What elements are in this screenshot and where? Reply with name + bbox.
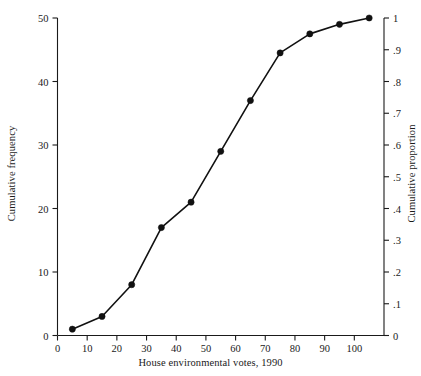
data-point-markers	[69, 15, 372, 332]
right-axis-tick-labels: 0.1.2.3.4.5.6.7.8.91	[393, 13, 402, 342]
left-tick-label: 20	[38, 204, 49, 215]
cumulative-frequency-chart: 01020304050 0.1.2.3.4.5.6.7.8.91 0102030…	[0, 0, 421, 376]
plot-area: 01020304050 0.1.2.3.4.5.6.7.8.91 0102030…	[0, 0, 421, 376]
right-axis-ticks	[384, 18, 389, 336]
right-tick-label: .5	[393, 172, 401, 183]
data-point	[366, 15, 372, 21]
right-tick-label: .4	[393, 204, 402, 215]
data-point	[277, 50, 283, 56]
x-axis-title: House environmental votes, 1990	[0, 357, 421, 368]
x-tick-label: 20	[112, 343, 123, 354]
right-tick-label: 0	[393, 331, 398, 342]
right-tick-label: .1	[393, 299, 401, 310]
x-tick-label: 40	[171, 343, 182, 354]
data-point	[129, 282, 135, 288]
left-tick-label: 40	[38, 77, 49, 88]
data-point	[158, 224, 164, 230]
data-point	[218, 148, 224, 154]
y-axis-title-right: Cumulative proportion	[406, 59, 417, 289]
right-tick-label: .2	[393, 267, 401, 278]
x-tick-label: 70	[260, 343, 271, 354]
y-axis-title-left: Cumulative frequency	[6, 59, 17, 289]
right-tick-label: .7	[393, 108, 401, 119]
right-tick-label: .6	[393, 140, 401, 151]
left-tick-label: 50	[38, 13, 49, 24]
data-point	[336, 21, 342, 27]
left-axis-ticks	[53, 18, 58, 336]
x-tick-label: 90	[319, 343, 330, 354]
x-tick-label: 100	[346, 343, 362, 354]
x-axis-tick-labels: 0102030405060708090100	[55, 343, 362, 354]
x-tick-label: 50	[201, 343, 212, 354]
x-axis-ticks	[58, 336, 355, 341]
data-point	[247, 97, 253, 103]
left-axis-tick-labels: 01020304050	[38, 13, 49, 342]
right-tick-label: .3	[393, 235, 401, 246]
right-tick-label: 1	[393, 13, 398, 24]
right-tick-label: .9	[393, 45, 401, 56]
data-point	[69, 326, 75, 332]
data-point	[307, 31, 313, 37]
x-tick-label: 60	[230, 343, 241, 354]
data-point	[188, 199, 194, 205]
x-tick-label: 10	[82, 343, 93, 354]
right-tick-label: .8	[393, 77, 401, 88]
left-tick-label: 30	[38, 140, 49, 151]
x-tick-label: 0	[55, 343, 60, 354]
data-line	[72, 18, 369, 329]
x-tick-label: 30	[141, 343, 152, 354]
x-tick-label: 80	[290, 343, 301, 354]
left-tick-label: 10	[38, 267, 49, 278]
data-point	[99, 313, 105, 319]
axis-lines	[58, 18, 385, 336]
left-tick-label: 0	[43, 331, 48, 342]
